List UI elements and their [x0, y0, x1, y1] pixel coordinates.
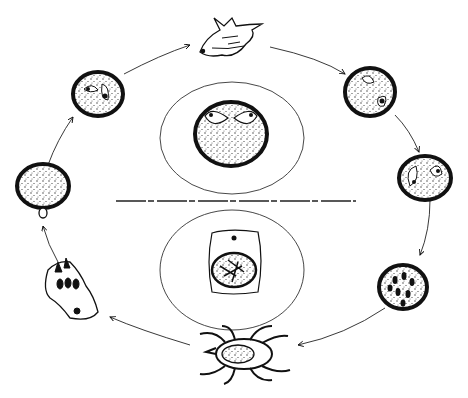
arrow-stage4-to-tick [298, 308, 385, 345]
center-bottom-panel [160, 210, 304, 330]
arrow-stage6-to-stage7 [43, 226, 58, 262]
arrow-host-to-stage2 [270, 47, 345, 74]
life-cycle-diagram [0, 0, 468, 398]
arrow-stage3-to-stage4 [420, 200, 430, 255]
arrow-stage8-to-host [124, 45, 190, 74]
stage-erythrocyte-lower-right [379, 265, 427, 309]
center-top-panel [160, 82, 304, 194]
erythrocyte-center-top [195, 102, 267, 166]
arrow-stage2-to-stage3 [395, 115, 419, 152]
stage-erythrocyte-right [399, 156, 451, 200]
stage-salivary-gland [45, 258, 98, 319]
stage-erythrocyte-left [17, 164, 69, 218]
arrow-tick-to-stage6 [110, 317, 190, 345]
stage-mammal-host [200, 18, 262, 56]
arrow-stage7-to-stage8 [48, 117, 73, 165]
stage-tick-vector [200, 326, 290, 384]
stage-erythrocyte-upper-right [345, 68, 395, 116]
stage-erythrocyte-upper-left [73, 72, 123, 116]
